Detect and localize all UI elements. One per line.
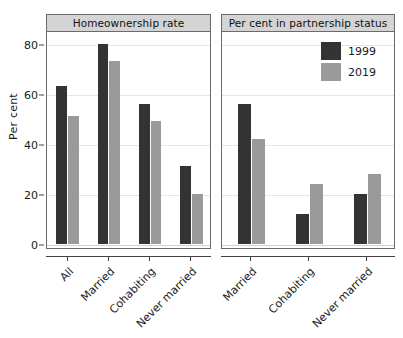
chart-figure: Per cent 020406080 Homeownership rate Pe… xyxy=(0,0,403,338)
bar-1999-cohabiting xyxy=(139,104,150,244)
legend-label: 1999 xyxy=(348,45,376,58)
x-axis-line xyxy=(221,256,395,257)
y-tick-mark xyxy=(39,245,44,246)
bar-1999-married xyxy=(98,44,109,244)
panel-title-left: Homeownership rate xyxy=(46,14,211,32)
y-tick-mark xyxy=(39,94,44,95)
legend-swatch-2019 xyxy=(321,63,341,81)
gridline xyxy=(222,95,394,96)
bar-2019-married xyxy=(109,61,120,244)
y-tick-mark xyxy=(39,144,44,145)
y-tick-mark xyxy=(39,194,44,195)
y-tick-label: 80 xyxy=(24,39,38,50)
legend-item: 2019 xyxy=(321,63,376,81)
y-axis-ticks: 020406080 xyxy=(18,0,44,338)
plot-area-left xyxy=(46,32,211,249)
gridline xyxy=(47,95,210,96)
legend-swatch-1999 xyxy=(321,42,341,60)
x-axis-line xyxy=(46,256,211,257)
bar-2019-cohabiting xyxy=(310,184,323,244)
y-tick-label: 20 xyxy=(24,189,38,200)
y-tick-mark xyxy=(39,44,44,45)
gridline xyxy=(47,45,210,46)
y-tick-label: 60 xyxy=(24,89,38,100)
bar-1999-never-married xyxy=(180,166,191,244)
chart-legend: 19992019 xyxy=(321,42,376,81)
bar-1999-married xyxy=(238,104,251,244)
baseline xyxy=(47,245,210,246)
bar-2019-never-married xyxy=(368,174,381,244)
y-tick-label: 40 xyxy=(24,139,38,150)
bar-2019-cohabiting xyxy=(151,121,162,244)
baseline xyxy=(222,245,394,246)
bar-1999-cohabiting xyxy=(296,214,309,244)
legend-label: 2019 xyxy=(348,66,376,79)
bar-1999-never-married xyxy=(354,194,367,244)
y-tick-label: 0 xyxy=(31,240,38,251)
panel-homeownership-rate: Homeownership rate xyxy=(46,14,211,249)
panel-title-right: Per cent in partnership status xyxy=(221,14,395,32)
legend-item: 1999 xyxy=(321,42,376,60)
bar-2019-never-married xyxy=(192,194,203,244)
bar-2019-all xyxy=(68,116,79,244)
bar-2019-married xyxy=(252,139,265,244)
bar-1999-all xyxy=(56,86,67,244)
